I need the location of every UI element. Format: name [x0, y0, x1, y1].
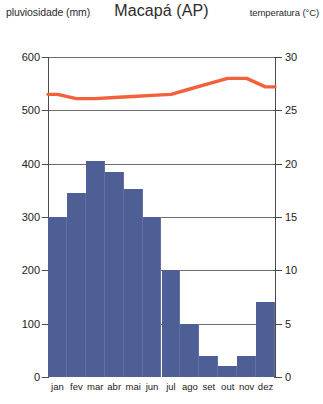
right-axis-title: temperatura (°C) — [250, 7, 319, 18]
left-axis-tick-label: 400 — [0, 158, 40, 170]
right-axis-tick — [274, 377, 282, 378]
right-axis-line — [275, 57, 276, 377]
bar-abr — [105, 172, 124, 377]
bar-dez — [256, 302, 275, 377]
left-axis-tick — [42, 377, 49, 378]
left-axis-tick-label: 100 — [0, 318, 40, 330]
bar-out — [218, 366, 237, 377]
bar-set — [199, 356, 218, 377]
left-axis-tick-label: 500 — [0, 104, 40, 116]
right-axis-tick-label: 25 — [285, 104, 297, 116]
bar-fev — [67, 193, 86, 377]
right-axis-tick-label: 30 — [285, 51, 297, 63]
bar-nov — [237, 356, 256, 377]
bar-jun — [143, 217, 162, 377]
bar-jan — [48, 217, 67, 377]
climograph: pluviosidade (mm) Macapá (AP) temperatur… — [0, 0, 323, 404]
bar-mai — [124, 189, 143, 377]
left-axis-tick-label: 200 — [0, 264, 40, 276]
x-label-jul: jul — [166, 381, 176, 392]
left-axis-tick-label: 0 — [0, 371, 40, 383]
x-label-jan: jan — [51, 381, 64, 392]
bar-mar — [86, 161, 105, 377]
x-axis-month-labels: janfevmarabrmaijunjulagosetoutnovdez — [48, 381, 275, 401]
x-label-jun: jun — [146, 381, 159, 392]
x-label-fev: fev — [70, 381, 83, 392]
x-label-set: set — [202, 381, 215, 392]
right-axis-tick-label: 20 — [285, 158, 297, 170]
x-label-abr: abr — [107, 381, 121, 392]
bar-ago — [180, 324, 199, 377]
left-axis-tick-label: 600 — [0, 51, 40, 63]
right-axis-tick-label: 0 — [285, 371, 291, 383]
left-axis-tick-label: 300 — [0, 211, 40, 223]
x-label-mai: mai — [125, 381, 140, 392]
x-label-nov: nov — [239, 381, 254, 392]
x-label-mar: mar — [87, 381, 103, 392]
x-label-dez: dez — [258, 381, 273, 392]
precipitation-bars — [48, 57, 275, 377]
x-label-ago: ago — [182, 381, 198, 392]
bar-jul — [162, 270, 181, 377]
right-axis-tick-label: 15 — [285, 211, 297, 223]
x-label-out: out — [221, 381, 234, 392]
right-axis-tick-label: 10 — [285, 264, 297, 276]
right-axis-tick-label: 5 — [285, 318, 291, 330]
